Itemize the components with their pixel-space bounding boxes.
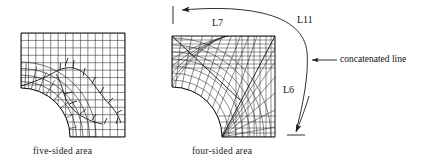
left-mesh-diagram [21,33,125,137]
label-l6: L6 [283,84,294,95]
annotation-concatenated-line: concatenated line [340,54,406,64]
caption-five-sided-area: five-sided area [33,146,92,156]
left-mesh-grid [21,33,125,137]
left-mesh-paved-band [21,62,96,137]
right-mesh-grid [172,30,275,137]
label-l11: L11 [297,14,313,25]
right-mesh-diagram [172,30,275,137]
figure-container: L7 L11 L6 concatenated line five-sided a… [0,0,424,166]
caption-four-sided-area: four-sided area [192,146,252,156]
label-l7: L7 [212,17,223,28]
